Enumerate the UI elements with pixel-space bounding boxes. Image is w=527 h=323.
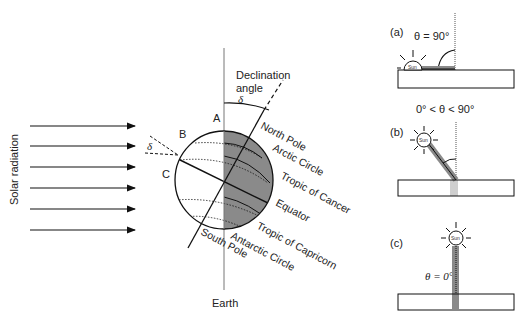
panel-b-tag: (b) bbox=[390, 126, 403, 138]
panel-c-sun-icon: Sun bbox=[441, 222, 471, 248]
panel-b: (b) 0° < θ < 90° Sun bbox=[390, 103, 514, 196]
tropic-capricorn-label: Tropic of Capricorn bbox=[255, 219, 339, 271]
point-label-c: C bbox=[162, 168, 170, 180]
equator-label: Equator bbox=[274, 196, 313, 224]
delta-dashed-line-2 bbox=[145, 153, 178, 155]
point-label-a: A bbox=[213, 112, 221, 124]
delta-symbol: δ bbox=[238, 93, 244, 105]
panel-c-tag: (c) bbox=[390, 237, 403, 249]
panel-a: (a) θ = 90° Sun bbox=[390, 13, 514, 88]
svg-text:Sun: Sun bbox=[451, 235, 460, 241]
solar-radiation-label: Solar radiation bbox=[8, 134, 20, 205]
svg-text:Sun: Sun bbox=[408, 64, 417, 70]
panel-a-sun-icon: Sun bbox=[397, 50, 426, 70]
panel-b-angle-label: 0° < θ < 90° bbox=[416, 103, 474, 115]
declination-label-line1: Declination bbox=[236, 69, 290, 81]
solar-declination-diagram: Solar radiation Decl bbox=[0, 0, 527, 323]
panel-a-tag: (a) bbox=[390, 26, 403, 38]
delta-symbol-left: δ bbox=[147, 140, 153, 152]
panel-c-angle-label: θ = 0° bbox=[425, 270, 454, 282]
panel-c: (c) θ = 0° Sun bbox=[390, 222, 514, 310]
solar-radiation-arrows bbox=[30, 126, 135, 230]
svg-text:Sun: Sun bbox=[419, 137, 428, 143]
point-label-b: B bbox=[179, 128, 186, 140]
panel-b-beam-footprint bbox=[450, 180, 458, 196]
axis-extension-dashed bbox=[264, 80, 283, 110]
earth-label: Earth bbox=[212, 297, 238, 309]
panel-a-angle-label: θ = 90° bbox=[414, 30, 449, 42]
panel-b-sun-icon: Sun bbox=[410, 126, 438, 154]
panel-a-surface bbox=[398, 70, 514, 88]
delta-dashed-line-1 bbox=[150, 136, 178, 155]
panel-c-beam bbox=[452, 246, 459, 309]
declination-arc bbox=[224, 103, 269, 110]
